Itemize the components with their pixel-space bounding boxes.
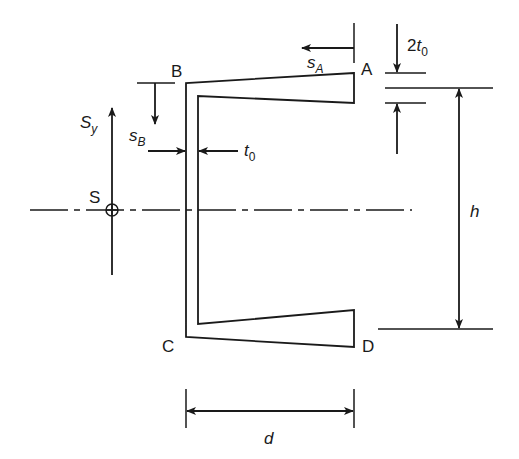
point-c-label: C <box>162 337 174 356</box>
web-thickness-label: t0 <box>244 141 256 164</box>
sb-label: sB <box>129 126 146 149</box>
shear-force-label: Sy <box>80 113 98 136</box>
point-a-label: A <box>361 60 373 79</box>
channel-section-diagram: S Sy A B C D sA sB t0 2t0 h d <box>0 0 519 459</box>
flange-thickness-label: 2t0 <box>407 36 428 59</box>
sa-label: sA <box>307 53 324 76</box>
point-b-label: B <box>171 62 182 81</box>
height-label: h <box>470 202 479 221</box>
point-d-label: D <box>362 337 374 356</box>
shear-centre-label: S <box>89 188 100 207</box>
depth-label: d <box>264 429 274 448</box>
